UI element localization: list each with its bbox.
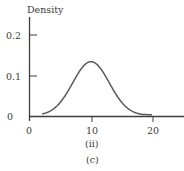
y-tick-label-0: 0: [7, 111, 13, 122]
x-tick-label-10: 10: [86, 125, 98, 136]
y-tick-label-0.1: 0.1: [6, 71, 21, 82]
x-tick-label-0: 0: [26, 125, 32, 136]
y-axis-label: Density: [27, 4, 64, 15]
caption: (c): [86, 154, 99, 165]
density-curve: [42, 62, 152, 115]
density-chart: Density 0.2 0.1 0 0 10 20 (ii) (c): [0, 0, 184, 171]
x-tick-label-20: 20: [147, 125, 159, 136]
y-tick-label-0.2: 0.2: [6, 30, 21, 41]
subcaption: (ii): [85, 138, 99, 149]
